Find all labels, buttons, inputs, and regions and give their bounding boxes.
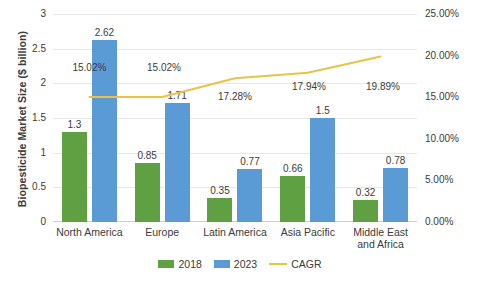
x-axis-labels: North America Europe Latin America Asia … bbox=[53, 226, 417, 250]
bar-value-label: 0.35 bbox=[210, 186, 229, 196]
legend-label: 2023 bbox=[234, 258, 257, 270]
legend-item-cagr[interactable]: CAGR bbox=[269, 258, 321, 270]
y-tick-label: 2.5 bbox=[32, 44, 46, 54]
legend-line-icon bbox=[269, 263, 287, 265]
bar-value-label: 1.71 bbox=[167, 91, 186, 101]
bar-2018[interactable]: 0.35 bbox=[207, 198, 232, 222]
x-tick-label: Europe bbox=[126, 226, 199, 250]
category-group: 0.35 0.77 bbox=[199, 14, 272, 222]
bar-2023[interactable]: 0.78 bbox=[383, 168, 408, 222]
y-tick-label: 0.5 bbox=[32, 182, 46, 192]
bar-2018[interactable]: 0.32 bbox=[353, 200, 378, 222]
y-tick-label: 0 bbox=[40, 217, 46, 227]
legend-label: CAGR bbox=[291, 258, 321, 270]
legend-item-2023[interactable]: 2023 bbox=[214, 258, 257, 270]
y-tick-label: 1.5 bbox=[32, 113, 46, 123]
y-tick-label: 3 bbox=[40, 9, 46, 19]
bar-2023[interactable]: 2.62 bbox=[92, 40, 117, 222]
biopesticide-market-chart: Biopesticide Market Size ($ billion) 3 2… bbox=[0, 0, 480, 287]
x-tick-label: Asia Pacific bbox=[271, 226, 344, 250]
chart-legend: 2018 2023 CAGR bbox=[0, 258, 480, 270]
legend-label: 2018 bbox=[178, 258, 201, 270]
y2-tick-label: 15.00% bbox=[425, 92, 459, 102]
bar-value-label: 0.85 bbox=[137, 151, 156, 161]
legend-swatch-icon bbox=[158, 260, 174, 268]
bar-value-label: 0.78 bbox=[386, 156, 405, 166]
legend-item-2018[interactable]: 2018 bbox=[158, 258, 201, 270]
bar-2023[interactable]: 1.5 bbox=[310, 118, 335, 222]
y-tick-label: 1 bbox=[40, 148, 46, 158]
y2-tick-label: 25.00% bbox=[425, 9, 459, 19]
bar-value-label: 2.62 bbox=[95, 28, 114, 38]
bar-value-label: 0.32 bbox=[356, 188, 375, 198]
bar-value-label: 1.5 bbox=[316, 106, 330, 116]
category-group: 0.85 1.71 bbox=[126, 14, 199, 222]
y-axis-title: Biopesticide Market Size ($ billion) bbox=[16, 14, 28, 224]
x-tick-label: North America bbox=[53, 226, 126, 250]
y2-tick-label: 10.00% bbox=[425, 134, 459, 144]
x-tick-label: Latin America bbox=[199, 226, 272, 250]
y2-tick-label: 5.00% bbox=[425, 175, 453, 185]
category-group: 0.32 0.78 bbox=[344, 14, 417, 222]
legend-swatch-icon bbox=[214, 260, 230, 268]
y2-tick-label: 20.00% bbox=[425, 51, 459, 61]
bar-2023[interactable]: 0.77 bbox=[237, 169, 262, 222]
bar-2018[interactable]: 1.3 bbox=[62, 132, 87, 222]
category-group: 0.66 1.5 bbox=[271, 14, 344, 222]
bar-2023[interactable]: 1.71 bbox=[165, 103, 190, 222]
bar-2018[interactable]: 0.85 bbox=[135, 163, 160, 222]
bar-2018[interactable]: 0.66 bbox=[280, 176, 305, 222]
category-group: 1.3 2.62 bbox=[53, 14, 126, 222]
bar-value-label: 0.77 bbox=[240, 157, 259, 167]
y-tick-label: 2 bbox=[40, 78, 46, 88]
bar-groups: 1.3 2.62 0.85 1.71 0.35 bbox=[53, 14, 417, 222]
bar-value-label: 1.3 bbox=[67, 120, 81, 130]
y2-tick-label: 0.00% bbox=[425, 217, 453, 227]
bar-value-label: 0.66 bbox=[283, 164, 302, 174]
x-tick-label: Middle East and Africa bbox=[344, 226, 417, 250]
